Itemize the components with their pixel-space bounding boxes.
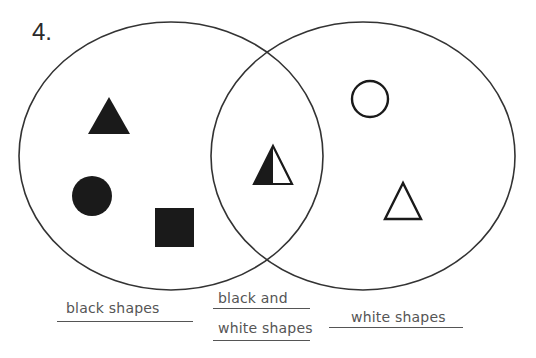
answer-line-left bbox=[57, 321, 193, 322]
black-triangle-icon bbox=[88, 97, 130, 134]
white-triangle-icon bbox=[385, 183, 421, 219]
right-circle bbox=[211, 22, 515, 290]
white-circle-icon bbox=[352, 81, 388, 117]
label-white-shapes: white shapes bbox=[351, 309, 446, 325]
label-black-and: black and bbox=[218, 290, 288, 306]
label-black-shapes: black shapes bbox=[66, 300, 160, 316]
answer-line-middle-2 bbox=[213, 340, 310, 341]
answer-line-right bbox=[329, 327, 463, 328]
label-white-shapes-middle: white shapes bbox=[218, 320, 313, 336]
answer-line-middle-1 bbox=[213, 308, 310, 309]
black-circle-icon bbox=[72, 176, 112, 216]
half-black-triangle-icon bbox=[254, 146, 292, 184]
black-square-icon bbox=[155, 208, 194, 247]
